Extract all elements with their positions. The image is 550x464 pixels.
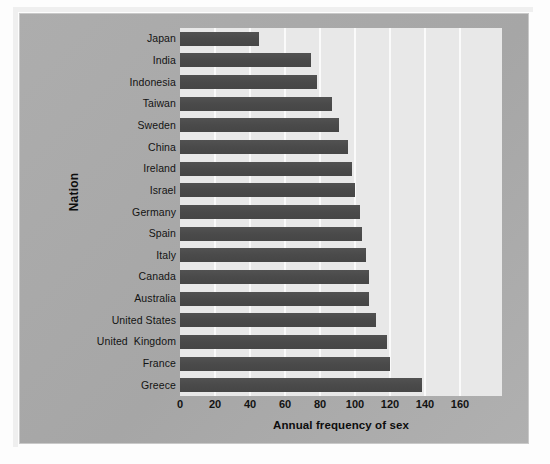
x-axis-tick-labels: 020406080100120140160 (0, 398, 550, 414)
x-axis-title: Annual frequency of sex (180, 419, 502, 431)
bar (180, 75, 317, 89)
x-tick-label: 80 (314, 398, 326, 410)
bar (180, 227, 362, 241)
y-tick-label: Sweden (0, 119, 176, 132)
x-tick-label: 100 (346, 398, 364, 410)
y-tick-label: France (0, 357, 176, 370)
y-tick-label: India (0, 54, 176, 67)
bar (180, 97, 332, 111)
y-tick-label: United States (0, 314, 176, 327)
bar (180, 205, 360, 219)
bar (180, 248, 366, 262)
y-tick-label: Greece (0, 379, 176, 392)
bar (180, 183, 355, 197)
gridline-x-120 (389, 28, 391, 396)
x-tick-label: 160 (451, 398, 469, 410)
y-tick-label: Israel (0, 184, 176, 197)
y-tick-label: Germany (0, 206, 176, 219)
bar (180, 313, 376, 327)
bar (180, 140, 348, 154)
bar (180, 292, 369, 306)
y-tick-label: Japan (0, 32, 176, 45)
y-axis-tick-labels: JapanIndiaIndonesiaTaiwanSwedenChinaIrel… (0, 28, 176, 396)
gridline-x-140 (424, 28, 426, 396)
y-tick-label: United Kingdom (0, 335, 176, 348)
bar (180, 32, 259, 46)
y-tick-label: Spain (0, 227, 176, 240)
bar (180, 162, 352, 176)
bar (180, 270, 369, 284)
y-tick-label: Indonesia (0, 76, 176, 89)
bar (180, 357, 390, 371)
y-tick-label: Italy (0, 249, 176, 262)
x-tick-label: 120 (381, 398, 399, 410)
plot-area (180, 28, 502, 396)
gridline-x-160 (459, 28, 461, 396)
y-tick-label: Taiwan (0, 97, 176, 110)
scan-edge-top (13, 7, 533, 12)
x-tick-label: 60 (279, 398, 291, 410)
y-tick-label: Ireland (0, 162, 176, 175)
figure-container: JapanIndiaIndonesiaTaiwanSwedenChinaIrel… (0, 0, 550, 464)
bar (180, 378, 422, 392)
y-tick-label: Australia (0, 292, 176, 305)
bar (180, 53, 311, 67)
bar (180, 118, 339, 132)
y-tick-label: Canada (0, 270, 176, 283)
bar (180, 335, 387, 349)
y-axis-title: Nation (67, 152, 81, 232)
y-tick-label: China (0, 141, 176, 154)
x-tick-label: 40 (244, 398, 256, 410)
x-tick-label: 140 (416, 398, 434, 410)
x-tick-label: 0 (177, 398, 183, 410)
x-tick-label: 20 (209, 398, 221, 410)
